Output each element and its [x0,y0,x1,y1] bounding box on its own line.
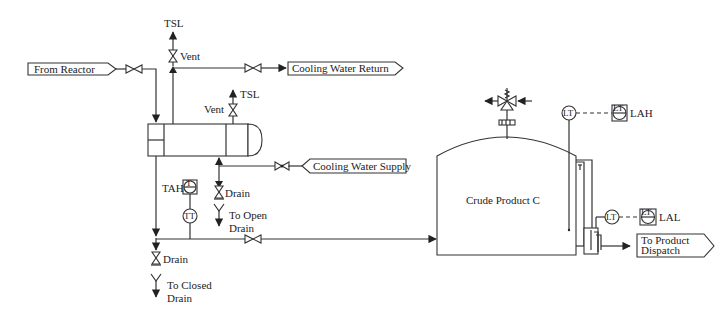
vent-valve-top-icon [169,50,177,62]
drain-shell-label: Drain [225,187,251,199]
reactor-inlet-valve-icon [126,65,142,73]
vent-top-label: Vent [180,50,200,62]
lt-top-transmitter-icon: LT [562,106,576,120]
tah-label: TAH [162,182,184,194]
lt-side-transmitter-icon: LT [605,210,619,224]
lah-label: LAH [630,107,653,119]
lal-label: LAL [659,211,681,223]
from-reactor-tag: From Reactor [28,63,116,75]
svg-text:LT: LT [606,212,617,222]
tt-transmitter-icon: TT [183,209,197,223]
svg-text:LT: LT [613,103,624,113]
tank-label: Crude Product C [466,194,540,206]
svg-text:Cooling Water Supply: Cooling Water Supply [313,160,411,172]
to-closed-drain-label-2: Drain [167,292,193,304]
svg-text:From Reactor: From Reactor [34,63,95,75]
process-diagram: From Reactor TSL Vent Cooling Water Retu… [0,0,725,318]
svg-text:Cooling Water Return: Cooling Water Return [292,62,389,74]
svg-text:LT: LT [563,108,574,118]
tsl-shell-label: TSL [240,88,260,100]
to-open-drain-label-1: To Open [229,209,268,221]
flame-arrestor-icon [499,120,515,125]
crude-product-tank: Crude Product C [437,137,576,255]
vent-shell-label: Vent [204,103,224,115]
svg-text:T: T [186,178,192,188]
to-closed-drain-label-1: To Closed [167,279,212,291]
drain-bottom-label: Drain [163,253,189,265]
cooling-water-supply-tag: Cooling Water Supply [302,159,411,173]
svg-text:TT: TT [184,211,195,221]
cw-return-valve-icon [245,64,261,72]
tank-inlet-valve-icon [245,235,261,243]
level-standpipe [576,160,601,254]
vent-valve-shell-icon [229,104,237,116]
pressure-vacuum-valve-icon [498,88,516,110]
lal-alarm-icon: LT [640,207,656,225]
svg-text:LT: LT [641,207,652,217]
cw-supply-valve-icon [275,162,289,170]
tah-alarm-icon: T [183,178,197,194]
to-open-drain-label-2: Drain [229,222,255,234]
heat-exchanger [148,124,262,156]
shell-drain-valve-icon [214,186,224,199]
tsl-top-label: TSL [164,17,184,29]
cooling-water-return-tag: Cooling Water Return [288,62,403,75]
bottom-drain-valve-icon [151,252,161,265]
lah-alarm-icon: LT [612,103,627,121]
to-product-dispatch-tag: To Product Dispatch [637,234,714,257]
svg-text:Dispatch: Dispatch [641,244,681,256]
